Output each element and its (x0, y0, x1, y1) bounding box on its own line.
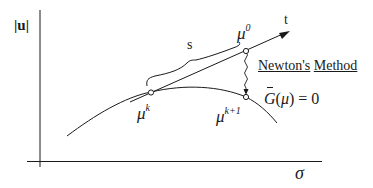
equation-argument: μ (281, 90, 289, 107)
x-axis-label: σ (295, 164, 304, 182)
continuation-diagram: |u| t s μ0 μk μk+1 Newton's Method G(μ) … (0, 0, 373, 188)
mu-k-base: μ (137, 104, 146, 123)
mu-0-base: μ (237, 24, 246, 43)
tangent-label: t (284, 13, 288, 27)
newton-correction-path (245, 52, 248, 92)
point-mu-k1-label: μk+1 (216, 106, 241, 125)
mu-k-superscript: k (146, 102, 150, 113)
method-word: Method (314, 58, 358, 73)
step-length-label: s (187, 38, 192, 52)
point-mu-0-label: μ0 (237, 23, 251, 42)
point-mu-k1-marker (243, 94, 248, 99)
step-brace (147, 42, 240, 86)
mu-0-superscript: 0 (246, 22, 251, 33)
newtons-method-label: Newton's Method (258, 59, 357, 73)
equation-rhs: = 0 (294, 90, 319, 107)
equation-label: G(μ) = 0 (264, 91, 319, 107)
equation-function: G (264, 90, 276, 107)
point-mu-k-marker (148, 90, 153, 95)
mu-k1-superscript: k+1 (225, 105, 241, 116)
mu-k1-base: μ (216, 107, 225, 126)
point-mu-k-label: μk (137, 103, 150, 122)
point-mu-0-marker (243, 48, 248, 53)
y-axis-label: |u| (14, 18, 29, 33)
newtons-word: Newton's (258, 58, 310, 73)
tangent-arrowhead-icon (279, 31, 290, 39)
